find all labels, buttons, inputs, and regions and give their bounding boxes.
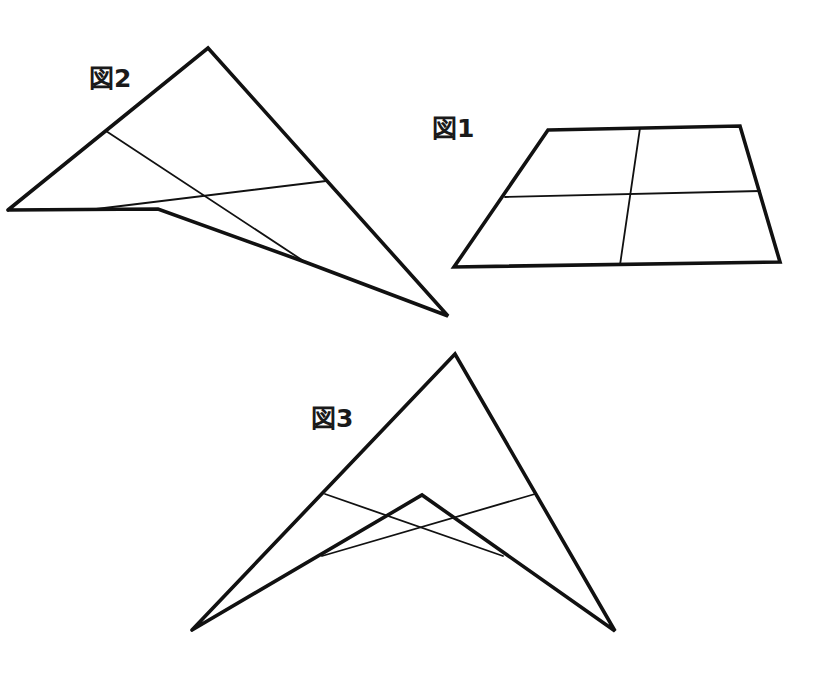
figure-3 <box>192 354 615 631</box>
figure-1-outline <box>454 126 780 267</box>
figure-1-label: 図1 <box>432 108 474 144</box>
figure-2 <box>8 48 448 316</box>
diagram-canvas <box>0 0 820 684</box>
figure-1 <box>454 126 780 267</box>
figure-2-label: 図2 <box>89 58 131 94</box>
figure-3-label: 図3 <box>311 398 353 434</box>
figure-1-vertical-crease <box>620 128 640 265</box>
figure-2-horizontal-crease <box>88 181 326 210</box>
figure-3-outline <box>192 354 615 631</box>
figure-1-horizontal-crease <box>505 191 760 197</box>
figure-2-outline <box>8 48 448 316</box>
